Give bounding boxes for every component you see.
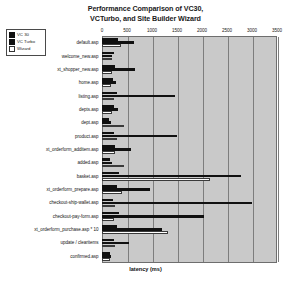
bar-wizard [102, 245, 115, 248]
bar-wizard [102, 71, 112, 74]
bar-vc-turbo [102, 202, 252, 205]
bar-wizard [102, 205, 115, 208]
x-tick-label: 3000 [247, 28, 257, 33]
bar-wizard [102, 165, 124, 168]
bar-group: update / clearitems [0, 236, 291, 249]
y-axis-category-label: product.asp [75, 134, 99, 139]
y-axis-category-label: xt_orderform_additem.asp [46, 147, 99, 152]
bar-wizard [102, 138, 117, 141]
bar-group: xt_orderform_additem.asp [0, 143, 291, 156]
legend-label: Wizard [17, 47, 30, 52]
y-axis-category-label: checkout-pay-form.asp [53, 214, 99, 219]
bar-wizard [102, 111, 112, 114]
bar-wizard [102, 58, 112, 61]
bar-wizard [102, 191, 122, 194]
y-axis-category-label: welcome_new.asp [62, 54, 99, 59]
bar-group: xt_shopper_new.asp [0, 63, 291, 76]
bar-group: basket.asp [0, 170, 291, 183]
x-axis-title: latency (ms) [0, 266, 291, 272]
bar-group: listing.asp [0, 89, 291, 102]
chart-figure: Performance Comparison of VC30, VCTurbo,… [0, 0, 291, 287]
x-tick-label: 2000 [197, 28, 207, 33]
bar-wizard [102, 125, 124, 128]
bar-group: added.asp [0, 156, 291, 169]
bar-wizard [102, 98, 114, 101]
bar-wizard [102, 231, 168, 234]
legend-item-2: VC Turbo [9, 39, 43, 45]
x-tick-label: 500 [123, 28, 131, 33]
y-axis-category-label: added.asp [77, 160, 98, 165]
chart-title: Performance Comparison of VC30, VCTurbo,… [0, 4, 291, 23]
bar-rows: default.aspwelcome_new.aspxt_shopper_new… [0, 36, 291, 263]
bar-group: home.asp [0, 76, 291, 89]
bar-group: xt_orderform_prepare.asp [0, 183, 291, 196]
y-axis-category-label: basket.asp [77, 174, 99, 179]
y-axis-category-label: checkout-ship-wallet.asp [49, 200, 98, 205]
legend-swatch-icon [9, 39, 15, 45]
bar-group: depts.asp [0, 103, 291, 116]
x-tick-label: 1500 [172, 28, 182, 33]
legend-item-3: Wizard [9, 46, 43, 52]
y-axis-category-label: confirmed.asp [70, 254, 98, 259]
x-tick-label: 1000 [147, 28, 157, 33]
bar-group: product.asp [0, 129, 291, 142]
legend-swatch-icon [9, 32, 15, 38]
bar-group: confirmed.asp [0, 250, 291, 263]
bar-wizard [102, 218, 114, 221]
y-axis-category-label: home.asp [79, 80, 99, 85]
bar-wizard [102, 44, 121, 47]
bar-group: dept.asp [0, 116, 291, 129]
chart-title-line-1: Performance Comparison of VC30, [0, 4, 291, 14]
bar-vc-turbo [102, 215, 204, 218]
bar-wizard [102, 84, 111, 87]
y-axis-category-label: xt_orderform_prepare.asp [46, 187, 98, 192]
bar-group: xt_orderform_purchase.asp * 10 [0, 223, 291, 236]
y-axis-category-label: default.asp [76, 40, 98, 45]
y-axis-category-label: dept.asp [81, 120, 98, 125]
chart-title-line-2: VCTurbo, and Site Builder Wizard [0, 14, 291, 24]
y-axis-category-label: xt_orderform_purchase.asp * 10 [34, 227, 98, 232]
x-tick-label: 3500 [272, 28, 282, 33]
legend-label: VC 30 [17, 33, 29, 38]
legend-label: VC Turbo [17, 40, 35, 45]
y-axis-category-label: xt_shopper_new.asp [57, 67, 98, 72]
legend-item-1: VC 30 [9, 32, 43, 38]
x-tick-label: 0 [101, 28, 104, 33]
y-axis-category-label: depts.asp [79, 107, 99, 112]
y-axis-category-label: update / clearitems [60, 240, 98, 245]
bar-wizard [102, 151, 115, 154]
chart-legend: VC 30VC TurboWizard [6, 29, 46, 56]
bar-wizard [102, 258, 110, 261]
y-axis-category-label: listing.asp [78, 94, 98, 99]
legend-swatch-icon [9, 46, 15, 52]
bar-group: checkout-ship-wallet.asp [0, 196, 291, 209]
bar-group: checkout-pay-form.asp [0, 210, 291, 223]
x-tick-label: 2500 [222, 28, 232, 33]
bar-wizard [102, 178, 210, 181]
